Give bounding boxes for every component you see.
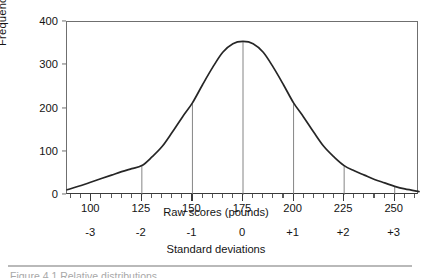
sd-label--3: -3 — [70, 226, 110, 238]
distribution-curve-layer — [67, 22, 419, 195]
x-major-tick-225 — [343, 194, 344, 201]
sd-label--1: -1 — [171, 226, 211, 238]
figure-caption: Figure 4.1 Relative distributions — [10, 270, 157, 278]
x-minor-tick-255 — [404, 194, 405, 198]
y-tick-label-0: 0 — [28, 188, 58, 200]
x-minor-tick-260 — [414, 194, 415, 198]
x-minor-tick-190 — [272, 194, 273, 198]
y-tick-label-200: 200 — [28, 102, 58, 114]
y-tick-label-300: 300 — [28, 58, 58, 70]
x-minor-tick-180 — [252, 194, 253, 198]
x-major-tick-125 — [141, 194, 142, 201]
x-minor-tick-110 — [111, 194, 112, 198]
x-minor-tick-205 — [303, 194, 304, 198]
sd-label--2: -2 — [121, 226, 161, 238]
sd-label-0: 0 — [222, 226, 262, 238]
x-minor-tick-240 — [373, 194, 374, 198]
x-axis-title: Raw scores (pounds) — [0, 206, 432, 218]
x-minor-tick-145 — [181, 194, 182, 198]
sd-label-3: +3 — [374, 226, 414, 238]
x-major-tick-150 — [191, 194, 192, 201]
x-minor-tick-160 — [212, 194, 213, 198]
plot-area — [67, 22, 417, 193]
figure-container: 0100200300400 100125150175200225250-3-2-… — [0, 0, 432, 278]
x-minor-tick-210 — [313, 194, 314, 198]
y-tick-mark-100 — [62, 150, 67, 151]
x-minor-tick-115 — [121, 194, 122, 198]
x-minor-tick-245 — [384, 194, 385, 198]
y-tick-mark-200 — [62, 107, 67, 108]
x-major-tick-250 — [394, 194, 395, 201]
sd-label-2: +2 — [323, 226, 363, 238]
x-minor-tick-185 — [262, 194, 263, 198]
y-tick-mark-0 — [62, 193, 67, 194]
x-minor-tick-135 — [161, 194, 162, 198]
x-minor-tick-90 — [70, 194, 71, 198]
x-minor-tick-215 — [323, 194, 324, 198]
caption-divider — [8, 265, 412, 267]
x-minor-tick-140 — [171, 194, 172, 198]
plot-frame — [66, 21, 418, 194]
y-axis-title: Frequency — [0, 0, 8, 46]
x-major-tick-100 — [90, 194, 91, 201]
x-minor-tick-170 — [232, 194, 233, 198]
sd-label-1: +1 — [273, 226, 313, 238]
x-minor-tick-165 — [222, 194, 223, 198]
x-major-tick-175 — [242, 194, 243, 201]
x-major-tick-200 — [293, 194, 294, 201]
y-tick-mark-300 — [62, 64, 67, 65]
y-tick-label-100: 100 — [28, 145, 58, 157]
x-minor-tick-195 — [282, 194, 283, 198]
x-axis-secondary-title: Standard deviations — [0, 243, 432, 255]
x-minor-tick-230 — [353, 194, 354, 198]
x-minor-tick-95 — [80, 194, 81, 198]
x-minor-tick-155 — [202, 194, 203, 198]
y-tick-mark-400 — [62, 20, 67, 21]
x-minor-tick-235 — [363, 194, 364, 198]
x-minor-tick-120 — [131, 194, 132, 198]
x-minor-tick-130 — [151, 194, 152, 198]
x-minor-tick-220 — [333, 194, 334, 198]
y-tick-label-400: 400 — [28, 15, 58, 27]
x-minor-tick-105 — [100, 194, 101, 198]
